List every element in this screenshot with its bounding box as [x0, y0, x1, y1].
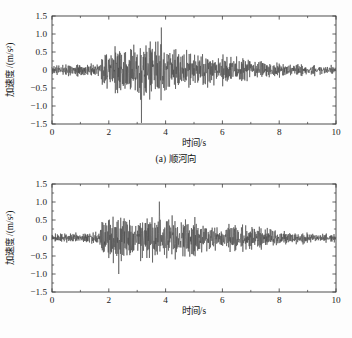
x-tick-label: 0 — [50, 127, 55, 137]
y-tick-label: −1.5 — [30, 287, 47, 297]
plot-canvas-b: 0246810−1.5−1.0−0.500.51.01.5 加速度 /(m/s²… — [0, 168, 352, 318]
x-tick-label: 4 — [163, 127, 168, 137]
y-tick-label: −0.5 — [30, 83, 47, 93]
x-tick-label: 6 — [220, 127, 225, 137]
x-tick-label: 10 — [331, 295, 341, 305]
y-tick-label: −1.0 — [30, 101, 47, 111]
y-tick-label: −1.0 — [30, 269, 47, 279]
y-tick-label: 0.5 — [36, 215, 48, 225]
y-tick-label: 1.0 — [36, 29, 48, 39]
acceleration-time-history-figure: 0246810−1.5−1.0−0.500.51.01.5 加速度 /(m/s²… — [0, 0, 352, 338]
y-tick-label: 1.5 — [36, 11, 48, 21]
subplot-caption-a: (a) 顺河向 — [0, 151, 352, 165]
x-axis-title-b: 时间/s — [182, 305, 207, 316]
x-axis-title-a: 时间/s — [182, 137, 207, 148]
x-tick-label: 8 — [277, 127, 282, 137]
y-tick-label: −0.5 — [30, 251, 47, 261]
y-axis-title-a: 加速度 /(m/s²) — [4, 43, 16, 98]
x-tick-label: 6 — [220, 295, 225, 305]
subplot-b-vertical: 0246810−1.5−1.0−0.500.51.01.5 加速度 /(m/s²… — [0, 168, 352, 338]
x-tick-label: 2 — [107, 295, 112, 305]
y-axis-title-b: 加速度 /(m/s²) — [4, 211, 16, 266]
x-tick-label: 0 — [50, 295, 55, 305]
x-tick-label: 4 — [163, 295, 168, 305]
x-tick-label: 2 — [107, 127, 112, 137]
x-tick-label: 8 — [277, 295, 282, 305]
subplot-a-along-river: 0246810−1.5−1.0−0.500.51.01.5 加速度 /(m/s²… — [0, 0, 352, 170]
x-tick-label: 10 — [331, 127, 341, 137]
y-tick-label: 0 — [42, 233, 47, 243]
y-tick-label: 1.5 — [36, 179, 48, 189]
y-tick-label: −1.5 — [30, 119, 47, 129]
y-tick-label: 0.5 — [36, 47, 48, 57]
y-tick-label: 0 — [42, 65, 47, 75]
y-tick-label: 1.0 — [36, 197, 48, 207]
plot-canvas-a: 0246810−1.5−1.0−0.500.51.01.5 加速度 /(m/s²… — [0, 0, 352, 150]
